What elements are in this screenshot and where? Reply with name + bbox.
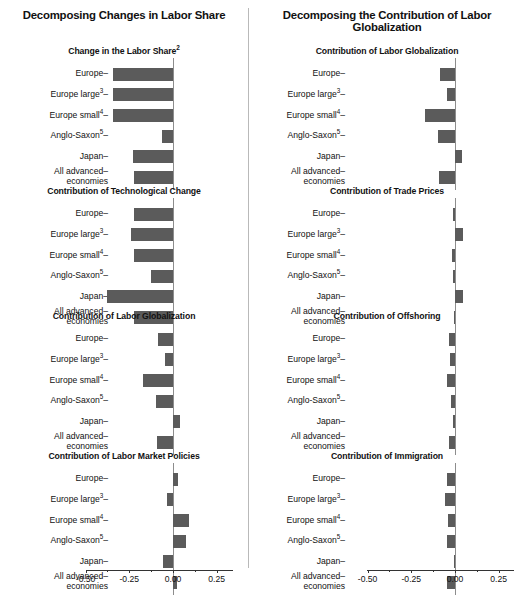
category-label-0: Europe– [313, 474, 346, 484]
category-label-3: Anglo-Saxon5– [287, 536, 345, 546]
category-tick: – [103, 229, 108, 239]
bar-0 [158, 333, 173, 346]
category-label-1: Europe large3– [50, 230, 108, 240]
bar-4 [133, 150, 173, 163]
x-axis-tick-label-3: 0.25 [490, 574, 507, 584]
bar-5 [439, 171, 455, 184]
x-axis-minor-tick-2 [477, 570, 478, 572]
category-tick: – [103, 375, 108, 385]
zero-line [455, 323, 456, 455]
category-tick: – [103, 89, 108, 99]
category-tick: – [340, 250, 345, 260]
x-axis-tick-3 [499, 570, 500, 573]
panel-title: Contribution of Immigration [255, 451, 519, 461]
bar-5 [157, 436, 173, 449]
x-axis: -0.50-0.250.000.25 [86, 570, 233, 584]
bar-5 [134, 171, 173, 184]
bar-0 [449, 333, 455, 346]
category-label-4: Japan– [317, 152, 345, 162]
category-tick: – [340, 208, 345, 218]
panel-title-footnote: 2 [176, 44, 179, 51]
category-tick: – [103, 354, 108, 364]
x-axis-tick-2 [173, 570, 174, 573]
category-tick: – [103, 473, 108, 483]
x-axis-tick-label-0: -0.50 [358, 574, 378, 584]
plot-area: Europe–Europe large3–Europe small4–Anglo… [255, 64, 519, 188]
bar-1 [445, 493, 455, 506]
bar-4 [173, 415, 180, 428]
category-tick: – [103, 556, 108, 566]
category-label-2: Europe small4– [287, 516, 345, 526]
plot-area: Europe–Europe large3–Europe small4–Anglo… [0, 204, 248, 328]
category-tick: – [340, 291, 345, 301]
bar-2 [113, 109, 173, 122]
category-label-5: All advanced–economies [54, 167, 108, 186]
category-label-3: Anglo-Saxon5– [287, 396, 345, 406]
x-axis: -0.50-0.250.000.25 [367, 570, 514, 584]
x-axis-minor-tick-0 [107, 570, 108, 572]
category-label-3: Anglo-Saxon5– [287, 271, 345, 281]
bar-1 [113, 88, 173, 101]
category-tick: – [103, 250, 108, 260]
right-column-title: Decomposing the Contribution of Labor Gl… [255, 9, 519, 33]
bar-2 [452, 249, 455, 262]
panel-title: Contribution of Labor Market Policies [0, 451, 248, 461]
category-label-5: All advanced–economies [291, 432, 345, 451]
category-tick: – [340, 333, 345, 343]
category-tick: – [340, 473, 345, 483]
x-axis-tick-2 [455, 570, 456, 573]
category-label-2: Europe small4– [287, 376, 345, 386]
category-tick: – [340, 110, 345, 120]
category-tick: – [103, 535, 108, 545]
category-label-0: Europe– [313, 69, 346, 79]
zero-line [173, 323, 174, 455]
bar-2 [447, 374, 455, 387]
bar-5 [449, 436, 455, 449]
bar-4 [107, 290, 173, 303]
category-tick: – [103, 270, 108, 280]
bar-1 [167, 493, 173, 506]
category-tick: – [103, 110, 108, 120]
category-label-4: Japan– [317, 557, 345, 567]
zero-line [173, 58, 174, 190]
category-label-1: Europe large3– [50, 495, 108, 505]
category-tick: – [340, 494, 345, 504]
category-label-4: Japan– [80, 417, 108, 427]
bar-4 [455, 150, 462, 163]
bar-2 [425, 109, 455, 122]
zero-line [455, 58, 456, 190]
category-tick: – [103, 151, 108, 161]
x-axis-tick-3 [217, 570, 218, 573]
category-tick: – [103, 333, 108, 343]
bar-4 [163, 555, 173, 568]
bar-2 [143, 374, 173, 387]
bar-3 [447, 535, 455, 548]
x-axis-tick-0 [86, 570, 87, 573]
x-axis-tick-label-1: -0.25 [402, 574, 422, 584]
category-tick: – [340, 151, 345, 161]
category-label-line2: economies [291, 582, 345, 592]
category-tick: – [340, 229, 345, 239]
category-label-5: All advanced–economies [291, 167, 345, 186]
bar-4 [454, 555, 455, 568]
x-axis-tick-label-0: -0.50 [76, 574, 96, 584]
plot-area: Europe–Europe large3–Europe small4–Anglo… [255, 204, 519, 328]
bar-1 [131, 228, 173, 241]
category-label-2: Europe small4– [287, 111, 345, 121]
bar-0 [113, 68, 173, 81]
category-tick: – [340, 270, 345, 280]
bar-0 [134, 208, 173, 221]
category-label-3: Anglo-Saxon5– [50, 536, 108, 546]
plot-area: Europe–Europe large3–Europe small4–Anglo… [0, 64, 248, 188]
bar-1 [447, 88, 455, 101]
bar-2 [134, 249, 173, 262]
bar-3 [162, 130, 173, 143]
panel-title: Change in the Labor Share2 [0, 46, 248, 56]
category-tick: – [340, 416, 345, 426]
panel-title: Contribution of Labor Globalization [0, 311, 248, 321]
bar-4 [453, 415, 455, 428]
bar-1 [450, 353, 455, 366]
category-label-2: Europe small4– [50, 111, 108, 121]
category-label-0: Europe– [76, 334, 109, 344]
zero-line [455, 198, 456, 330]
